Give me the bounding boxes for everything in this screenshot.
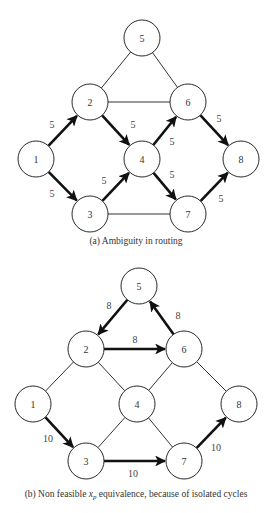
- caption-b-rest: equivalence, because of isolated cycles: [96, 489, 247, 499]
- node-7: 7: [170, 196, 206, 232]
- node-label: 4: [135, 399, 140, 410]
- node-label: 5: [137, 281, 142, 292]
- node-4: 4: [124, 141, 160, 177]
- edge-2-5: [101, 52, 130, 88]
- network-flow-figure: 12345678 55555555 (a) Ambiguity in routi…: [0, 0, 272, 513]
- node-2: 2: [72, 84, 108, 120]
- node-label: 1: [31, 399, 36, 410]
- edge-6-8: [197, 362, 227, 392]
- edge-label-4-7: 5: [170, 169, 175, 180]
- edge-label-7-8: 10: [211, 442, 221, 453]
- diagram-b-non-feasible-equivalence: 12345678 888101010 (b) Non feasible xp e…: [15, 268, 257, 501]
- node-label: 3: [84, 456, 89, 467]
- node-label: 6: [186, 97, 191, 108]
- edge-5-6: [153, 53, 178, 88]
- diagram-b-caption: (b) Non feasible xp equivalence, because…: [25, 489, 248, 501]
- node-2: 2: [68, 331, 104, 367]
- node-6: 6: [166, 331, 202, 367]
- node-label: 8: [239, 154, 244, 165]
- node-5: 5: [124, 20, 160, 56]
- node-8: 8: [221, 386, 257, 422]
- edge-label-1-3: 10: [43, 433, 53, 444]
- flow-arrow-6-5: [150, 301, 173, 334]
- edge-label-1-2: 5: [50, 119, 55, 130]
- diagram-b-edges: [45, 300, 226, 461]
- diagram-a-ambiguity-in-routing: 12345678 55555555 (a) Ambiguity in routi…: [18, 20, 259, 247]
- edge-label-6-5: 8: [176, 310, 181, 321]
- node-3: 3: [68, 443, 104, 479]
- node-7: 7: [166, 443, 202, 479]
- flow-arrow-2-4: [102, 115, 129, 145]
- edge-label-3-7: 10: [128, 468, 138, 479]
- edge-label-5-2: 8: [107, 300, 112, 311]
- diagram-a-caption: (a) Ambiguity in routing: [89, 236, 182, 247]
- edge-label-2-6: 8: [133, 334, 138, 345]
- edge-3-4: [98, 417, 125, 447]
- flow-arrow-6-8: [200, 115, 228, 145]
- node-1: 1: [15, 386, 51, 422]
- edge-1-2: [45, 362, 73, 391]
- node-1: 1: [18, 141, 54, 177]
- flow-arrow-5-2: [98, 300, 127, 335]
- node-label: 6: [182, 344, 187, 355]
- edge-label-6-8: 5: [217, 113, 222, 124]
- node-3: 3: [72, 196, 108, 232]
- node-8: 8: [223, 141, 259, 177]
- node-6: 6: [170, 84, 206, 120]
- edge-label-4-6: 5: [170, 136, 175, 147]
- node-label: 5: [140, 33, 145, 44]
- node-label: 7: [186, 209, 191, 220]
- node-5: 5: [121, 268, 157, 304]
- node-4: 4: [119, 386, 155, 422]
- node-label: 1: [34, 154, 39, 165]
- edge-label-3-4: 5: [102, 175, 107, 186]
- node-label: 2: [88, 97, 93, 108]
- node-label: 2: [84, 344, 89, 355]
- edge-label-2-4: 5: [131, 119, 136, 130]
- node-label: 8: [237, 399, 242, 410]
- node-label: 7: [182, 456, 187, 467]
- edge-4-6: [149, 363, 173, 391]
- edge-label-7-8: 5: [219, 193, 224, 204]
- flow-arrow-7-8: [200, 173, 227, 201]
- edge-2-4: [98, 362, 125, 391]
- node-label: 3: [88, 209, 93, 220]
- caption-b-main: (b) Non feasible: [25, 489, 89, 500]
- node-label: 4: [140, 154, 145, 165]
- edge-label-1-3: 5: [50, 188, 55, 199]
- diagram-a-edges: [48, 52, 228, 214]
- edge-4-7: [148, 418, 172, 447]
